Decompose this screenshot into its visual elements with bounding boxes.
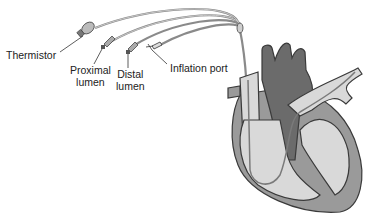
distal-lumen-label-line1: Distal	[116, 68, 145, 80]
distal-lumen-label: Distal lumen	[116, 68, 145, 92]
catheter-junction	[237, 23, 243, 33]
heart-illustration	[228, 43, 362, 212]
thermistor-label: Thermistor	[6, 49, 56, 61]
proximal-lumen-label: Proximal lumen	[70, 64, 111, 88]
thermistor-connector-icon	[77, 20, 97, 38]
distal-lumen-connector-icon	[126, 42, 138, 54]
inflation-port-connector-icon	[146, 42, 162, 50]
distal-lumen-label-line2: lumen	[116, 80, 145, 92]
catheter-heart-diagram	[0, 0, 373, 224]
inflation-port-label: Inflation port	[170, 62, 228, 74]
proximal-lumen-label-line2: lumen	[70, 76, 111, 88]
proximal-lumen-label-line1: Proximal	[70, 64, 111, 76]
proximal-lumen-connector-icon	[101, 36, 115, 49]
